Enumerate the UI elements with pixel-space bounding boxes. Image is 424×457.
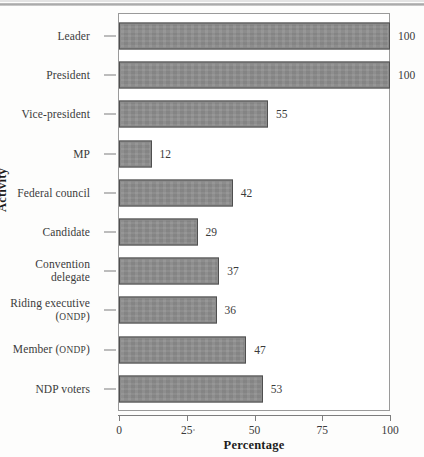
category-tick bbox=[104, 153, 116, 154]
x-tick-mark bbox=[187, 415, 188, 421]
x-tick-mark bbox=[119, 415, 120, 421]
x-tick-label: 75 bbox=[317, 424, 329, 436]
bar bbox=[119, 297, 217, 324]
x-tick-label: 50 bbox=[249, 424, 261, 436]
bar-value-label: 42 bbox=[241, 187, 253, 199]
category-tick bbox=[104, 36, 116, 37]
x-tick-mark bbox=[322, 415, 323, 421]
bar bbox=[119, 140, 152, 167]
category-label: Riding executive(ONDP) bbox=[0, 297, 90, 324]
bar bbox=[119, 219, 198, 246]
bar-value-label: 37 bbox=[227, 265, 239, 277]
x-axis-title: Percentage bbox=[118, 438, 390, 453]
category-label: NDP voters bbox=[0, 382, 90, 395]
x-tick-mark bbox=[390, 415, 391, 421]
bar-value-label: 36 bbox=[225, 304, 237, 316]
bar-rows-container: Leader100President100Vice-president55MP1… bbox=[0, 13, 424, 411]
x-tick-label: 100 bbox=[381, 424, 398, 436]
bar-value-label: 29 bbox=[206, 226, 218, 238]
bar bbox=[119, 101, 268, 128]
bar-value-label: 12 bbox=[160, 148, 172, 160]
bar-value-label: 100 bbox=[398, 69, 415, 81]
x-tick-mark bbox=[255, 415, 256, 421]
bar bbox=[119, 336, 246, 363]
y-axis-title: Activity bbox=[0, 168, 10, 212]
category-label: Leader bbox=[0, 30, 90, 43]
category-tick bbox=[104, 114, 116, 115]
category-label: Candidate bbox=[0, 226, 90, 239]
x-tick-label: 25 bbox=[181, 424, 193, 436]
bar bbox=[119, 179, 233, 206]
scan-artifact-band bbox=[0, 3, 424, 6]
bar-value-label: 47 bbox=[254, 344, 266, 356]
category-tick bbox=[104, 75, 116, 76]
category-tick bbox=[104, 271, 116, 272]
bar bbox=[119, 23, 390, 50]
category-label: Member (ONDP) bbox=[0, 343, 90, 357]
category-tick bbox=[104, 349, 116, 350]
category-label: Vice-president bbox=[0, 108, 90, 121]
bar-value-label: 55 bbox=[276, 108, 288, 120]
bar-value-label: 53 bbox=[271, 383, 283, 395]
category-label: Conventiondelegate bbox=[0, 258, 90, 284]
scan-artifact-top bbox=[0, 0, 424, 2]
category-label: Federal council bbox=[0, 186, 90, 199]
category-label: President bbox=[0, 69, 90, 82]
bar-chart-figure: Leader100President100Vice-president55MP1… bbox=[0, 0, 424, 457]
scan-speck bbox=[193, 429, 195, 431]
category-tick bbox=[104, 310, 116, 311]
category-tick bbox=[104, 192, 116, 193]
bar bbox=[119, 375, 263, 402]
bar bbox=[119, 258, 219, 285]
category-label: MP bbox=[0, 147, 90, 160]
category-tick bbox=[104, 388, 116, 389]
category-tick bbox=[104, 232, 116, 233]
bar-value-label: 100 bbox=[398, 30, 415, 42]
x-tick-label: 0 bbox=[116, 424, 122, 436]
bar bbox=[119, 62, 390, 89]
